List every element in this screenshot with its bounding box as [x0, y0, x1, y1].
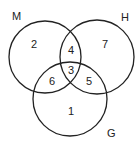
region-m-h: 4: [68, 44, 74, 56]
set-label-g: G: [107, 127, 116, 139]
set-label-h: H: [121, 11, 129, 23]
venn-diagram: M H G 2 7 4 3 6 5 1: [0, 0, 140, 148]
set-circle-h: [60, 20, 134, 94]
region-m-h-g: 3: [68, 64, 74, 76]
set-label-m: M: [12, 10, 21, 22]
region-g-only: 1: [68, 105, 74, 117]
region-h-g: 5: [86, 75, 92, 87]
region-m-g: 6: [49, 75, 55, 87]
region-m-only: 2: [31, 38, 37, 50]
region-h-only: 7: [102, 38, 108, 50]
